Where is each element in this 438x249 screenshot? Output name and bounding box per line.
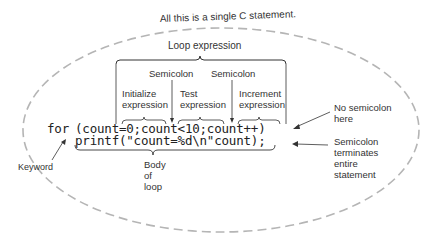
no-semicolon-line1: No semicolon: [334, 102, 392, 113]
increment-line1: Increment: [239, 88, 285, 99]
increment-expression-label: Increment expression: [239, 88, 285, 110]
loop-expression-label: Loop expression: [168, 40, 241, 51]
no-semicolon-line2: here: [334, 113, 392, 124]
body-line2: of: [144, 170, 166, 181]
test-expression-label: Test expression: [180, 88, 226, 110]
terminator-line4: statement: [334, 169, 378, 180]
body-line3: loop: [144, 181, 166, 192]
terminator-arrow-line: [296, 144, 328, 145]
semicolon-label-1: Semicolon: [149, 68, 193, 79]
terminator-label: Semicolon terminates entire statement: [334, 136, 378, 180]
keyword-arrow-line: [52, 142, 63, 160]
terminator-arrowhead: [292, 141, 298, 147]
for-keyword: for: [47, 122, 69, 136]
terminator-line1: Semicolon: [334, 136, 378, 147]
no-semicolon-label: No semicolon here: [334, 102, 392, 124]
loop-body-code: printf("count=%d\n"count);: [75, 134, 265, 148]
no-semicolon-arrowhead: [293, 124, 300, 129]
body-line1: Body: [144, 159, 166, 170]
keyword-label: Keyword: [18, 162, 53, 173]
semicolon-label-2: Semicolon: [211, 68, 255, 79]
test-line2: expression: [180, 99, 226, 110]
initialize-line2: expression: [122, 99, 168, 110]
terminator-line2: terminates: [334, 147, 378, 158]
terminator-line3: entire: [334, 158, 378, 169]
increment-line2: expression: [239, 99, 285, 110]
body-of-loop-label: Body of loop: [144, 159, 166, 192]
loop-expression-brace: [116, 56, 286, 64]
test-line1: Test: [180, 88, 226, 99]
no-semicolon-arrow-line: [296, 112, 330, 127]
initialize-line1: Initialize: [122, 88, 168, 99]
initialize-expression-label: Initialize expression: [122, 88, 168, 110]
